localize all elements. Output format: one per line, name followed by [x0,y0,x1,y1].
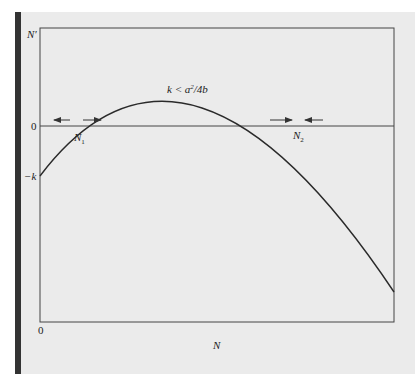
n2-label: N2 [292,129,304,144]
origin-label: 0 [38,324,44,336]
n1-label: N1 [73,131,85,146]
condition-label: k < a2/4b [167,83,208,95]
phase-diagram: N′ 0 −k 0 N k < a2/4b N1 N2 [0,0,415,374]
y-axis-label: N′ [26,28,37,40]
x-axis-label: N [212,339,221,351]
zero-tick-label: 0 [31,120,37,132]
plot-frame [40,28,394,322]
neg-k-label: −k [24,170,37,182]
growth-curve [40,101,394,292]
